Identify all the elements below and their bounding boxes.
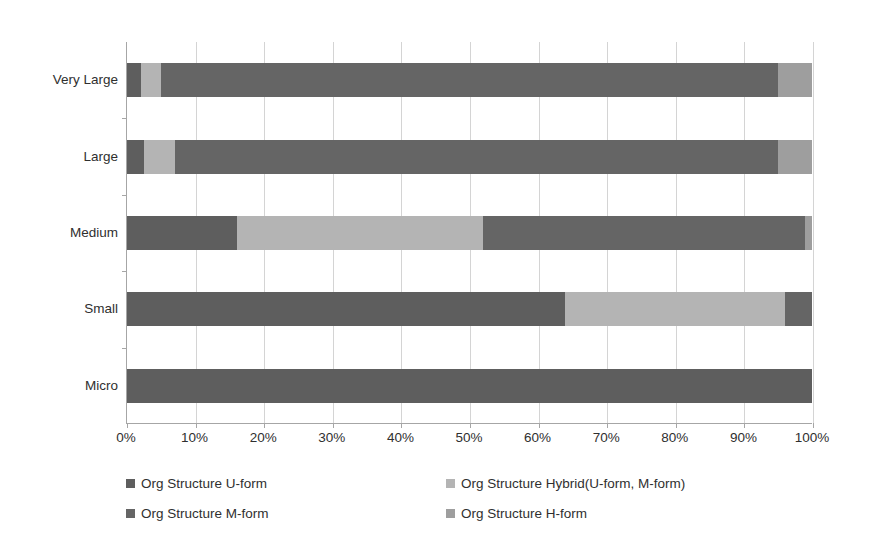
bar-segment: [778, 140, 812, 174]
plot-area: [126, 42, 812, 424]
y-axis-tick: [122, 195, 127, 196]
legend-label: Org Structure H-form: [461, 506, 587, 521]
x-axis-label: 90%: [730, 430, 757, 445]
legend-label: Org Structure Hybrid(U-form, M-form): [461, 476, 685, 491]
x-axis-tick: [470, 423, 471, 428]
x-axis-label: 100%: [795, 430, 830, 445]
gridline: [813, 42, 814, 423]
y-axis-label: Very Large: [18, 73, 118, 87]
bar-segment: [785, 292, 812, 326]
legend-swatch-icon: [446, 479, 455, 488]
x-axis-label: 50%: [455, 430, 482, 445]
bar-segment: [778, 63, 812, 97]
y-axis-label: Medium: [18, 226, 118, 240]
legend-swatch-icon: [126, 509, 135, 518]
legend-item[interactable]: Org Structure U-form: [126, 476, 446, 491]
x-axis-tick: [127, 423, 128, 428]
legend-item[interactable]: Org Structure Hybrid(U-form, M-form): [446, 476, 816, 491]
bar-segment: [565, 292, 784, 326]
bar-segment: [237, 216, 484, 250]
x-axis-tick: [264, 423, 265, 428]
bar-segment: [127, 216, 237, 250]
x-axis-tick: [607, 423, 608, 428]
legend-item[interactable]: Org Structure M-form: [126, 506, 446, 521]
bar-segment: [161, 63, 778, 97]
bar-segment: [483, 216, 805, 250]
bar-row: [127, 216, 812, 250]
legend-swatch-icon: [126, 479, 135, 488]
x-axis-tick: [401, 423, 402, 428]
y-axis-label-group: Very LargeLargeMediumSmallMicro: [8, 42, 118, 424]
legend-label: Org Structure M-form: [141, 506, 269, 521]
x-axis-label-group: 0%10%20%30%40%50%60%70%80%90%100%: [126, 430, 812, 452]
x-axis-tick: [539, 423, 540, 428]
x-axis-label: 40%: [387, 430, 414, 445]
legend-swatch-icon: [446, 509, 455, 518]
bar-row: [127, 292, 812, 326]
x-axis-label: 20%: [250, 430, 277, 445]
chart-legend: Org Structure U-formOrg Structure Hybrid…: [126, 468, 816, 528]
x-axis-tick: [333, 423, 334, 428]
bar-segment: [127, 140, 144, 174]
legend-item[interactable]: Org Structure H-form: [446, 506, 816, 521]
y-axis-label: Small: [18, 302, 118, 316]
bar-segment: [141, 63, 162, 97]
y-axis-label: Large: [18, 150, 118, 164]
bar-row: [127, 63, 812, 97]
y-axis-tick: [122, 271, 127, 272]
x-axis-tick: [744, 423, 745, 428]
legend-label: Org Structure U-form: [141, 476, 267, 491]
bar-segment: [127, 63, 141, 97]
x-axis-label: 70%: [593, 430, 620, 445]
x-axis-tick: [196, 423, 197, 428]
x-axis-tick: [813, 423, 814, 428]
y-axis-tick: [122, 118, 127, 119]
x-axis-label: 80%: [661, 430, 688, 445]
bar-segment: [175, 140, 778, 174]
x-axis-label: 30%: [318, 430, 345, 445]
bar-row: [127, 369, 812, 403]
x-axis-label: 60%: [524, 430, 551, 445]
bar-row: [127, 140, 812, 174]
bar-segment: [127, 292, 565, 326]
x-axis-label: 0%: [116, 430, 136, 445]
bar-segment: [127, 369, 812, 403]
bar-segment: [805, 216, 812, 250]
x-axis-label: 10%: [181, 430, 208, 445]
x-axis-tick: [676, 423, 677, 428]
bar-segment: [144, 140, 175, 174]
y-axis-tick: [122, 348, 127, 349]
stacked-bar-chart: Very LargeLargeMediumSmallMicro 0%10%20%…: [0, 0, 871, 547]
y-axis-label: Micro: [18, 379, 118, 393]
